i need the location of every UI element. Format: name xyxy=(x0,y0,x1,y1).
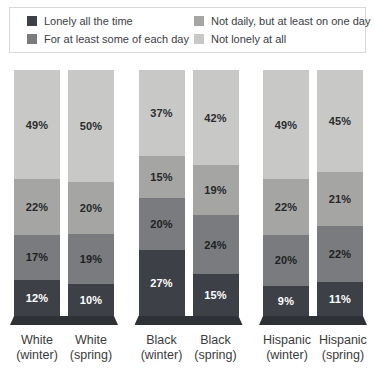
bar-segment-not-lonely-at-all: 37% xyxy=(139,70,185,156)
x-axis-labels-row: Hispanic(winter)Hispanic(spring) xyxy=(263,333,363,363)
bar-group-base xyxy=(135,316,243,325)
bar-segment-not-daily-but-at-least-on-one-day: 19% xyxy=(193,165,239,215)
bars-row: 49%22%20%9%45%21%22%11% xyxy=(263,70,363,316)
bar-segment-not-daily-but-at-least-on-one-day: 21% xyxy=(317,172,363,226)
x-axis-label-line2: (spring) xyxy=(319,348,367,363)
segment-value-label: 17% xyxy=(26,251,49,263)
segment-value-label: 15% xyxy=(204,289,227,301)
bar-segment-not-lonely-at-all: 49% xyxy=(263,70,309,179)
bar-segment-lonely-all-the-time: 9% xyxy=(263,286,309,316)
segment-value-label: 24% xyxy=(204,239,227,251)
bar-segment-not-lonely-at-all: 49% xyxy=(14,70,60,179)
x-axis-label-line1: Hispanic xyxy=(263,333,311,348)
stacked-bar-hispanic-spring: 45%21%22%11% xyxy=(317,70,363,316)
stacked-bar-white-winter: 49%22%17%12% xyxy=(14,70,60,316)
legend-swatch-icon xyxy=(27,16,37,26)
bar-segment-lonely-all-the-time: 27% xyxy=(139,250,185,316)
x-axis-label-white-spring: White(spring) xyxy=(68,333,114,363)
segment-value-label: 49% xyxy=(26,119,49,131)
bar-segment-lonely-all-the-time: 10% xyxy=(68,284,114,316)
x-axis-label-black-spring: Black(spring) xyxy=(193,333,239,363)
legend-label: Not lonely at all xyxy=(211,32,286,46)
legend-label: For at least some of each day xyxy=(44,32,189,46)
bar-segment-for-at-least-some-of-each-day: 22% xyxy=(317,226,363,282)
x-axis-label-line2: (spring) xyxy=(193,348,239,363)
legend-item-not-daily-but-at-least-on-one-day: Not daily, but at least on one day xyxy=(194,14,370,28)
segment-value-label: 42% xyxy=(204,112,227,124)
bar-group-white: 49%22%17%12%50%20%19%10%White(winter)Whi… xyxy=(14,70,114,363)
legend-item-for-at-least-some-of-each-day: For at least some of each day xyxy=(27,32,190,46)
x-axis-label-hispanic-winter: Hispanic(winter) xyxy=(263,333,311,363)
bars-row: 49%22%17%12%50%20%19%10% xyxy=(14,70,114,316)
segment-value-label: 22% xyxy=(329,248,352,260)
segment-value-label: 15% xyxy=(150,171,173,183)
x-axis-label-line2: (winter) xyxy=(263,348,311,363)
segment-value-label: 10% xyxy=(80,294,103,306)
bars-row: 37%15%20%27%42%19%24%15% xyxy=(139,70,239,316)
bar-segment-for-at-least-some-of-each-day: 19% xyxy=(68,234,114,284)
x-axis-label-line1: Black xyxy=(139,333,185,348)
x-axis-labels-row: White(winter)White(spring) xyxy=(14,333,114,363)
x-axis-label-line1: White xyxy=(14,333,60,348)
legend-swatch-icon xyxy=(27,34,37,44)
bar-segment-for-at-least-some-of-each-day: 17% xyxy=(14,235,60,281)
x-axis-label-line2: (spring) xyxy=(68,348,114,363)
segment-value-label: 11% xyxy=(329,293,351,305)
bar-group-hispanic: 49%22%20%9%45%21%22%11%Hispanic(winter)H… xyxy=(263,70,363,363)
segment-value-label: 22% xyxy=(275,201,298,213)
stacked-bar-hispanic-winter: 49%22%20%9% xyxy=(263,70,309,316)
legend-item-lonely-all-the-time: Lonely all the time xyxy=(27,14,190,28)
stacked-bar-black-winter: 37%15%20%27% xyxy=(139,70,185,316)
segment-value-label: 27% xyxy=(150,277,173,289)
segment-value-label: 9% xyxy=(278,295,294,307)
segment-value-label: 20% xyxy=(275,254,298,266)
bar-segment-lonely-all-the-time: 12% xyxy=(14,280,60,316)
segment-value-label: 20% xyxy=(80,202,103,214)
stacked-bar-white-spring: 50%20%19%10% xyxy=(68,70,114,316)
bar-segment-for-at-least-some-of-each-day: 20% xyxy=(263,235,309,287)
segment-value-label: 37% xyxy=(150,107,173,119)
bar-segment-for-at-least-some-of-each-day: 24% xyxy=(193,215,239,275)
stacked-bar-black-spring: 42%19%24%15% xyxy=(193,70,239,316)
bar-group-black: 37%15%20%27%42%19%24%15%Black(winter)Bla… xyxy=(139,70,239,363)
legend-label: Lonely all the time xyxy=(44,14,133,28)
legend-item-not-lonely-at-all: Not lonely at all xyxy=(194,32,370,46)
bar-group-base xyxy=(259,316,367,325)
segment-value-label: 45% xyxy=(329,115,352,127)
legend-swatch-icon xyxy=(194,16,204,26)
x-axis-labels-row: Black(winter)Black(spring) xyxy=(139,333,239,363)
x-axis-label-line1: White xyxy=(68,333,114,348)
bar-segment-lonely-all-the-time: 15% xyxy=(193,274,239,316)
segment-value-label: 49% xyxy=(275,119,298,131)
x-axis-label-white-winter: White(winter) xyxy=(14,333,60,363)
loneliness-stacked-bar-chart: Lonely all the time Not daily, but at le… xyxy=(0,0,374,371)
bar-segment-for-at-least-some-of-each-day: 20% xyxy=(139,198,185,250)
x-axis-label-line2: (winter) xyxy=(14,348,60,363)
x-axis-label-black-winter: Black(winter) xyxy=(139,333,185,363)
segment-value-label: 21% xyxy=(329,193,352,205)
segment-value-label: 22% xyxy=(26,201,49,213)
bar-segment-lonely-all-the-time: 11% xyxy=(317,282,363,316)
segment-value-label: 19% xyxy=(204,184,227,196)
bar-segment-not-lonely-at-all: 45% xyxy=(317,70,363,172)
bar-segment-not-lonely-at-all: 50% xyxy=(68,70,114,182)
segment-value-label: 12% xyxy=(26,292,49,304)
legend-label: Not daily, but at least on one day xyxy=(211,14,370,28)
bar-segment-not-daily-but-at-least-on-one-day: 20% xyxy=(68,182,114,234)
x-axis-label-line1: Black xyxy=(193,333,239,348)
legend: Lonely all the time Not daily, but at le… xyxy=(9,7,366,53)
bar-segment-not-lonely-at-all: 42% xyxy=(193,70,239,165)
segment-value-label: 19% xyxy=(80,253,103,265)
bar-group-base xyxy=(10,316,118,325)
x-axis-label-line1: Hispanic xyxy=(319,333,367,348)
x-axis-label-line2: (winter) xyxy=(139,348,185,363)
bar-segment-not-daily-but-at-least-on-one-day: 22% xyxy=(14,179,60,235)
segment-value-label: 50% xyxy=(80,120,103,132)
bar-segment-not-daily-but-at-least-on-one-day: 15% xyxy=(139,156,185,198)
chart-groups: 49%22%17%12%50%20%19%10%White(winter)Whi… xyxy=(0,70,374,363)
x-axis-label-hispanic-spring: Hispanic(spring) xyxy=(319,333,367,363)
segment-value-label: 20% xyxy=(150,218,173,230)
bar-segment-not-daily-but-at-least-on-one-day: 22% xyxy=(263,179,309,235)
legend-swatch-icon xyxy=(194,34,204,44)
